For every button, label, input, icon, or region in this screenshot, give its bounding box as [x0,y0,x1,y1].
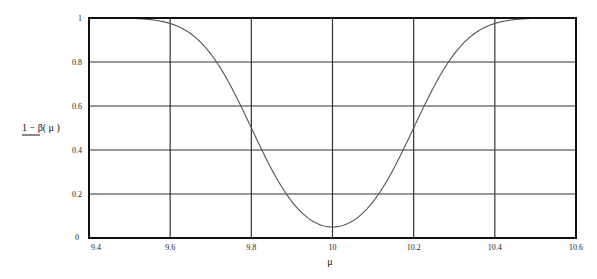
x-tick-label: 10.4 [488,243,502,252]
x-axis-ticks: 9.49.69.81010.210.410.6 [91,243,583,252]
x-tick-label: 10 [329,243,337,252]
y-tick-label: 0 [75,233,79,242]
y-tick-label: 1 [78,14,82,23]
x-tick-label: 9.6 [165,243,175,252]
y-axis-label-group: 1 − β( μ ) [22,122,60,135]
y-tick-label: 0.8 [72,58,82,67]
x-axis-label: μ [327,256,332,267]
y-axis-ticks: 00.20.40.60.81 [72,14,82,242]
power-curve-chart: 00.20.40.60.81 9.49.69.81010.210.410.6 μ… [0,0,597,279]
y-tick-label: 0.2 [72,190,82,199]
x-tick-label: 10.6 [569,243,583,252]
y-tick-label: 0.4 [72,146,82,155]
x-tick-label: 10.2 [407,243,421,252]
y-axis-label: 1 − β( μ ) [22,122,60,134]
x-tick-label: 9.8 [246,243,256,252]
x-tick-label: 9.4 [91,243,101,252]
y-tick-label: 0.6 [72,102,82,111]
grid-lines [89,18,576,238]
